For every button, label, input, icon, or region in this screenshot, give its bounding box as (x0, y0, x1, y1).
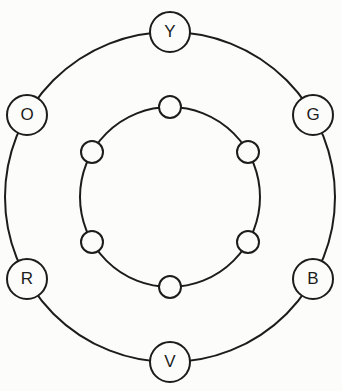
outer-node-R: R (6, 258, 48, 300)
inner-ring (80, 107, 260, 287)
outer-node-Y: Y (149, 11, 191, 53)
outer-node-G: G (292, 94, 334, 136)
outer-node-V: V (149, 341, 191, 383)
outer-node-V-label: V (164, 352, 175, 372)
inner-node-top (158, 95, 182, 119)
outer-node-O-label: O (20, 105, 33, 125)
inner-node-lower-left (80, 230, 104, 254)
outer-node-B-label: B (307, 269, 318, 289)
outer-node-B: B (292, 258, 334, 300)
outer-node-O: O (6, 94, 48, 136)
inner-node-bottom (158, 275, 182, 299)
outer-node-Y-label: Y (164, 22, 175, 42)
outer-node-R-label: R (21, 269, 33, 289)
concentric-rings (0, 0, 342, 391)
color-wheel-diagram: Y O G R B V (0, 0, 342, 391)
outer-node-G-label: G (306, 105, 319, 125)
inner-node-upper-left (80, 140, 104, 164)
inner-node-lower-right (236, 230, 260, 254)
outer-ring (5, 32, 335, 362)
inner-node-upper-right (236, 140, 260, 164)
